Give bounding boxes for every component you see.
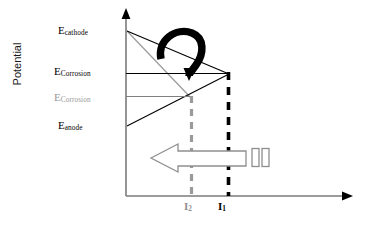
label-e-anode-sub: anode (65, 124, 83, 132)
arrow-tail-block-2 (262, 149, 269, 167)
label-e-cathode: Ecathode (58, 25, 88, 38)
anodic-line (127, 74, 229, 126)
x-tick-label-i2-sub: 2 (188, 205, 192, 213)
label-e-anode-base: E (58, 119, 65, 131)
x-tick-label-i1: I1 (218, 201, 226, 214)
label-e-cathode-base: E (58, 24, 65, 36)
polarization-curves (126, 31, 229, 126)
label-e-cathode-sub: cathode (65, 29, 88, 37)
arrowhead-up-icon (122, 8, 131, 19)
axes-group (122, 8, 353, 200)
polarization-diagram: Potential (0, 0, 367, 239)
arrow-tail-blocks (252, 149, 269, 167)
label-e-corrosion-gray: ECorrosion (54, 92, 91, 105)
x-tick-label-i2: I2 (184, 201, 192, 214)
label-e-corrosion-gray-base: E (54, 91, 61, 103)
current-decrease-arrow (151, 144, 246, 172)
label-e-corrosion-gray-sub: Corrosion (61, 96, 91, 104)
cathodic-line-black (127, 31, 229, 74)
cathodic-line-gray (127, 31, 192, 99)
label-e-corrosion-black-sub: Corrosion (61, 70, 91, 78)
label-e-corrosion-black-base: E (54, 65, 61, 77)
arrowhead-right-icon (342, 192, 353, 201)
arrow-tail-block-1 (252, 149, 259, 167)
x-tick-label-i1-sub: 1 (222, 205, 226, 213)
label-e-corrosion-black: ECorrosion (54, 66, 91, 79)
label-e-anode: Eanode (58, 120, 83, 133)
